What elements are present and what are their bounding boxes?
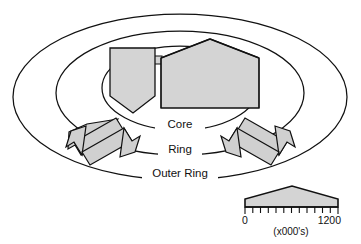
outer-volume-prism (161, 39, 259, 108)
ring-label-outer-ring: Outer Ring (152, 167, 208, 179)
ring-label-core-group: Core (155, 116, 205, 132)
scale-legend-ticks (245, 207, 338, 214)
scale-unit-label: (x000's) (273, 226, 308, 237)
scale-min-label: 0 (242, 214, 248, 226)
scale-legend-tent-shape (245, 186, 338, 207)
ring-label-core: Core (168, 118, 193, 130)
ring-label-outer-ring-group: Outer Ring (142, 165, 218, 181)
core-volume-prism (110, 48, 155, 113)
ring-diagram-figure: Core Ring Outer Ring (0, 0, 361, 244)
ring-label-ring: Ring (168, 143, 192, 155)
scale-max-label: 1200 (318, 214, 342, 226)
scale-legend: 0 1200 (x000's) (242, 186, 341, 237)
diagram-canvas: Core Ring Outer Ring (0, 0, 361, 244)
ring-label-ring-group: Ring (158, 141, 202, 157)
